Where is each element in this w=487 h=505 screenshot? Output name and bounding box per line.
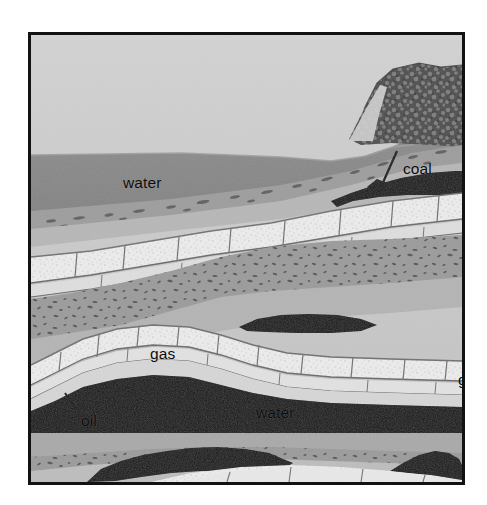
label-water-lower: water xyxy=(256,405,294,421)
label-gas-right: gas xyxy=(458,372,465,388)
label-coal: coal xyxy=(403,161,432,177)
label-water-upper: water xyxy=(123,175,161,191)
figure-page: water coal gas gas oil water xyxy=(0,0,487,505)
label-oil: oil xyxy=(81,413,97,429)
label-gas-left: gas xyxy=(150,346,175,362)
geology-cross-section-figure: water coal gas gas oil water xyxy=(28,32,465,485)
